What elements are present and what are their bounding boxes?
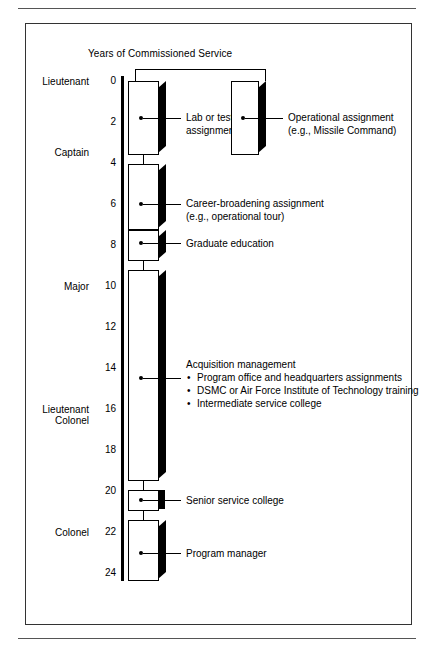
rank-label-line1: Lieutenant: [42, 404, 89, 415]
rank-label-lieutenant: Lieutenant: [11, 76, 89, 87]
career-path-plot: 0 2 4 6 8 10 12 14 16 18 20 22 24 Lieute…: [26, 24, 413, 626]
callout-title: Lab or test: [186, 111, 237, 124]
callout-lab-or-test: Lab or test assignment: [186, 111, 237, 137]
ytick-10: 10: [94, 281, 116, 291]
rank-label-captain: Captain: [11, 147, 89, 158]
year-axis-line: [121, 76, 124, 581]
callout-subtitle: (e.g., operational tour): [186, 210, 324, 223]
callout-title: Senior service college: [186, 494, 284, 507]
callout-title: Program manager: [186, 547, 267, 560]
ytick-14: 14: [94, 363, 116, 373]
rank-label-lieutenant-colonel: Lieutenant Colonel: [11, 404, 89, 426]
callout-title: Graduate education: [186, 237, 274, 250]
callout-leader-lab-or-test: [143, 118, 181, 119]
box-shadow-face: [158, 270, 166, 479]
box-shadow-face: [158, 520, 166, 579]
ytick-2: 2: [94, 117, 116, 127]
callout-title: Acquisition management: [186, 358, 419, 371]
ytick-12: 12: [94, 322, 116, 332]
assignment-box-acquisition-management[interactable]: [128, 270, 159, 481]
callout-leader-operational: [245, 118, 283, 119]
figure-frame: Years of Commissioned Service 0 2 4 6 8 …: [25, 23, 412, 625]
ytick-8: 8: [94, 240, 116, 250]
assignment-box-program-manager[interactable]: [128, 520, 159, 581]
callout-leader-senior-service-college: [143, 500, 181, 501]
callout-acquisition-management: Acquisition management Program office an…: [186, 358, 419, 410]
rank-label-colonel: Colonel: [11, 527, 89, 538]
callout-program-manager: Program manager: [186, 547, 267, 560]
callout-leader-program-manager: [143, 553, 181, 554]
connector-stem-4: [143, 511, 144, 520]
bottom-divider-rule: [18, 638, 416, 639]
assignment-box-career-broadening[interactable]: [128, 164, 159, 230]
callout-graduate-education: Graduate education: [186, 237, 274, 250]
assignment-box-graduate-education[interactable]: [128, 230, 159, 261]
box-shadow-face: [258, 81, 266, 153]
ytick-22: 22: [94, 527, 116, 537]
ytick-6: 6: [94, 199, 116, 209]
box-shadow-face: [158, 81, 166, 153]
callout-title: Career-broadening assignment: [186, 197, 324, 210]
box-shadow-face: [158, 230, 166, 259]
callout-title: Operational assignment: [288, 111, 396, 124]
box-shadow-face: [158, 164, 166, 228]
callout-bullet-item: Intermediate service college: [186, 397, 419, 410]
ytick-16: 16: [94, 404, 116, 414]
callout-leader-graduate-education: [143, 243, 181, 244]
callout-leader-acquisition-management: [143, 378, 181, 379]
figure-page: Years of Commissioned Service 0 2 4 6 8 …: [0, 0, 434, 648]
callout-subtitle: (e.g., Missile Command): [288, 124, 396, 137]
top-bracket-connector: [135, 69, 266, 81]
callout-bullet-item: Program office and headquarters assignme…: [186, 371, 419, 384]
connector-stem-3: [143, 481, 144, 490]
rank-label-major: Major: [11, 281, 89, 292]
ytick-24: 24: [94, 568, 116, 578]
ytick-0: 0: [94, 76, 116, 86]
callout-senior-service-college: Senior service college: [186, 494, 284, 507]
callout-subtitle: assignment: [186, 124, 237, 137]
ytick-20: 20: [94, 486, 116, 496]
top-divider-rule: [18, 8, 416, 9]
connector-stem-2: [143, 261, 144, 270]
ytick-18: 18: [94, 445, 116, 455]
callout-bullet-item: DSMC or Air Force Institute of Technolog…: [186, 384, 419, 397]
ytick-4: 4: [94, 158, 116, 168]
callout-leader-career-broadening: [143, 204, 181, 205]
callout-operational: Operational assignment (e.g., Missile Co…: [288, 111, 396, 137]
connector-stem-1: [143, 155, 144, 164]
callout-career-broadening: Career-broadening assignment (e.g., oper…: [186, 197, 324, 223]
rank-label-line2: Colonel: [55, 415, 89, 426]
callout-bullet-list: Program office and headquarters assignme…: [186, 371, 419, 410]
